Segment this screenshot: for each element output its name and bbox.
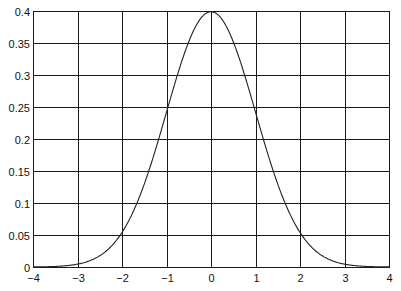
y-tick-label: 0.15 xyxy=(9,166,30,178)
normal-distribution-chart: 00.050.10.150.20.250.30.350.4 −4−3−2−101… xyxy=(0,0,401,291)
y-tick-label: 0.3 xyxy=(15,70,30,82)
x-tick-label: −3 xyxy=(72,272,85,284)
grid-lines xyxy=(33,11,390,268)
x-tick-label: 2 xyxy=(297,272,303,284)
x-tick-label: 4 xyxy=(386,272,392,284)
y-tick-label: 0.4 xyxy=(15,6,30,18)
y-tick-label: 0.25 xyxy=(9,102,30,114)
x-tick-label: −1 xyxy=(161,272,174,284)
y-tick-label: 0.2 xyxy=(15,134,30,146)
x-tick-label: −2 xyxy=(116,272,129,284)
y-tick-label: 0.05 xyxy=(9,230,30,242)
x-tick-label: 0 xyxy=(208,272,214,284)
y-axis-tick-labels: 00.050.10.150.20.250.30.350.4 xyxy=(9,6,30,274)
y-tick-label: 0.1 xyxy=(15,198,30,210)
x-tick-label: 3 xyxy=(342,272,348,284)
y-tick-label: 0.35 xyxy=(9,38,30,50)
x-axis-tick-labels: −4−3−2−101234 xyxy=(27,272,392,284)
x-tick-label: −4 xyxy=(27,272,40,284)
x-tick-label: 1 xyxy=(253,272,259,284)
